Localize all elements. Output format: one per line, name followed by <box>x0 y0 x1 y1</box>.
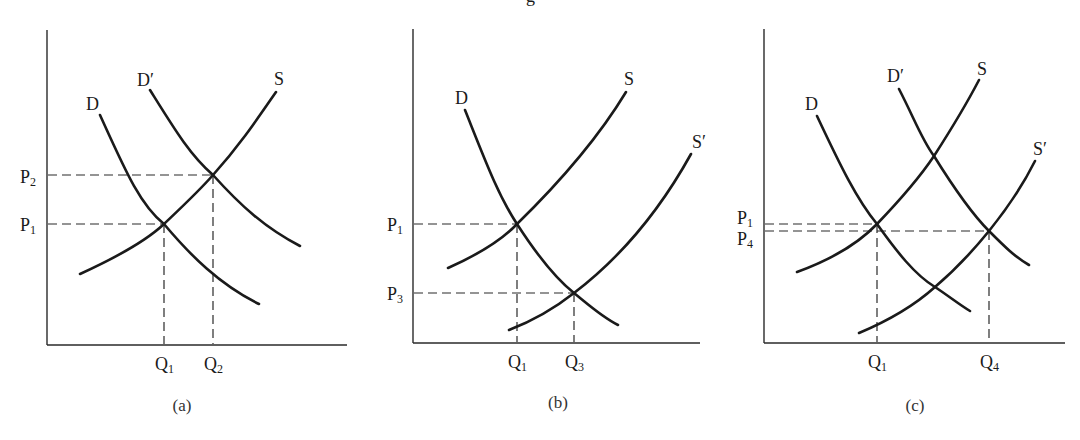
supply-curve-s <box>80 92 276 274</box>
quantity-label-q4: Q4 <box>980 352 999 374</box>
curve-label-d: D <box>86 94 99 114</box>
curve-label-s: S <box>977 59 987 79</box>
supply-curve-s <box>797 80 979 272</box>
supply-curve-s-prime <box>509 154 691 330</box>
quantity-label-q1: Q1 <box>155 354 174 376</box>
panel-caption-c: (c) <box>906 396 925 415</box>
quantity-label-q3: Q3 <box>565 352 584 374</box>
panel-caption-b: (b) <box>548 393 568 412</box>
price-label-p1: P1 <box>387 215 403 237</box>
title-fragment: g <box>526 0 535 6</box>
price-label-p3: P3 <box>387 284 403 306</box>
curve-label-d: D <box>455 88 468 108</box>
curve-label-s: S <box>274 69 284 89</box>
price-label-p1: P1 <box>20 215 36 237</box>
quantity-label-q1: Q1 <box>868 352 887 374</box>
supply-demand-diagram: g D D′ S P2 P1 Q1 Q2 (a) D S S′ P1 <box>0 0 1080 440</box>
panel-caption-a: (a) <box>173 396 192 415</box>
demand-curve-d <box>817 116 970 311</box>
quantity-label-q1: Q1 <box>508 352 527 374</box>
panel-c: D D′ S S′ P1 P4 Q1 Q4 (c) <box>737 29 1065 415</box>
demand-curve-d-prime <box>150 90 300 246</box>
panel-a: D D′ S P2 P1 Q1 Q2 (a) <box>20 30 347 415</box>
curve-label-d-prime: D′ <box>137 70 154 90</box>
curve-label-d: D <box>805 94 818 114</box>
curve-label-s: S <box>624 69 634 89</box>
panel-b: D S S′ P1 P3 Q1 Q3 (b) <box>387 29 706 412</box>
supply-curve-s-prime <box>859 161 1035 333</box>
supply-curve-s <box>448 92 626 268</box>
price-label-p1: P1 <box>737 208 753 230</box>
price-label-p4: P4 <box>737 229 753 251</box>
curve-label-s-prime: S′ <box>692 132 706 152</box>
price-label-p2: P2 <box>20 167 36 189</box>
quantity-label-q2: Q2 <box>204 354 223 376</box>
curve-label-s-prime: S′ <box>1033 139 1047 159</box>
curve-label-d-prime: D′ <box>887 66 904 86</box>
